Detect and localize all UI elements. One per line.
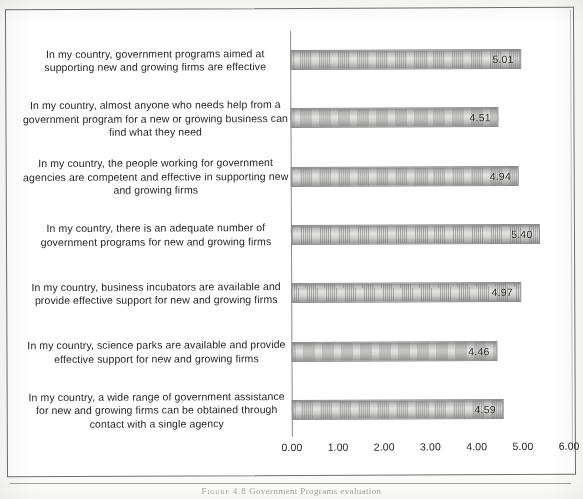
- bar-category-label: In my country, science parks are availab…: [22, 338, 290, 366]
- scanned-page: In my country, government programs aimed…: [0, 0, 583, 499]
- bar-value-label: 4.46: [468, 345, 496, 357]
- x-axis-tick: 6.00: [559, 440, 580, 452]
- bar-category-label: In my country, government programs aimed…: [21, 47, 289, 75]
- bar-track: 4.59: [292, 379, 571, 438]
- bar[interactable]: 4.97: [291, 282, 521, 303]
- x-axis-tick: 3.00: [420, 440, 441, 452]
- bar-chart-plot-area: In my country, government programs aimed…: [6, 8, 575, 476]
- bar-track: 5.01: [290, 30, 569, 89]
- caption-divider: [10, 483, 571, 484]
- bar-category-label: In my country, business incubators are a…: [22, 280, 290, 308]
- bar-value-label: 4.97: [492, 286, 520, 298]
- bar-row: In my country, government programs aimed…: [6, 30, 573, 91]
- bar-row: In my country, a wide range of governmen…: [8, 379, 575, 440]
- bar[interactable]: 4.46: [291, 341, 497, 362]
- x-axis-tick: 5.00: [512, 440, 533, 452]
- bar[interactable]: 4.94: [291, 166, 519, 187]
- bar-value-label: 5.01: [492, 53, 520, 65]
- x-axis-tick: 4.00: [466, 440, 487, 452]
- bar-category-label: In my country, a wide range of governmen…: [23, 390, 291, 432]
- figure-caption-text: Government Programs evaluation: [249, 486, 381, 496]
- bar-row: In my country, the people working for go…: [7, 146, 574, 207]
- bar-row: In my country, there is an adequate numb…: [7, 205, 574, 266]
- bar-category-label: In my country, the people working for go…: [22, 156, 290, 198]
- bar-value-label: 4.94: [490, 170, 518, 182]
- x-axis-tick: 2.00: [374, 441, 395, 453]
- bar-value-label: 4.59: [474, 403, 502, 415]
- x-axis-tick: 0.00: [281, 441, 302, 453]
- bar-track: 5.40: [291, 205, 570, 264]
- x-axis-tick-labels: 0.001.002.003.004.005.006.00: [292, 440, 571, 463]
- bar[interactable]: 4.51: [290, 108, 498, 129]
- bar-track: 4.97: [291, 263, 570, 322]
- bar-rows-container: In my country, government programs aimed…: [6, 8, 573, 10]
- bar-row: In my country, science parks are availab…: [7, 321, 574, 382]
- bar[interactable]: 4.59: [292, 399, 504, 420]
- x-axis-tick: 1.00: [328, 441, 349, 453]
- bar[interactable]: 5.40: [291, 224, 541, 245]
- bar[interactable]: 5.01: [290, 49, 522, 70]
- chart-frame: In my country, government programs aimed…: [5, 7, 576, 477]
- bar-row: In my country, almost anyone who needs h…: [6, 88, 573, 149]
- bar-category-label: In my country, there is an adequate numb…: [22, 221, 290, 249]
- bar-category-label: In my country, almost anyone who needs h…: [21, 98, 289, 140]
- bar-row: In my country, business incubators are a…: [7, 263, 574, 324]
- bar-track: 4.46: [291, 321, 570, 380]
- bar-value-label: 5.40: [511, 228, 539, 240]
- figure-number: Figure 4.8: [202, 486, 247, 496]
- figure-caption: Figure 4.8 Government Programs evaluatio…: [0, 486, 583, 496]
- bar-value-label: 4.51: [470, 112, 498, 124]
- bar-track: 4.94: [291, 146, 570, 205]
- bar-track: 4.51: [290, 88, 569, 147]
